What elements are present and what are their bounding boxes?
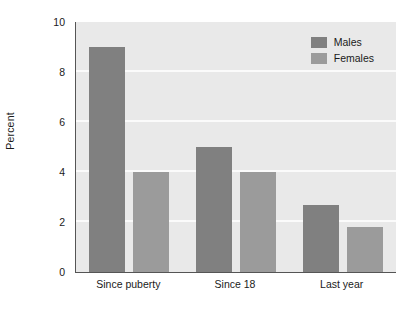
x-axis-tick-labels: Since pubertySince 18Last year: [75, 278, 395, 298]
legend-label-males: Males: [334, 36, 362, 48]
y-tick-label: 8: [59, 66, 65, 78]
y-axis-tick-labels: 0246810: [0, 0, 72, 310]
bar-males-since-puberty: [89, 47, 125, 272]
plot-area: Males Females: [75, 22, 396, 273]
legend-label-females: Females: [334, 52, 374, 64]
legend-item-females: Females: [311, 52, 374, 64]
bar-group: [89, 22, 169, 272]
legend: Males Females: [311, 36, 374, 64]
x-tick-label: Since puberty: [96, 278, 160, 290]
bar-females-since-18: [240, 172, 276, 272]
bar-chart: Percent 0246810 Males Females Since pube…: [0, 0, 408, 310]
y-tick-label: 0: [59, 266, 65, 278]
y-tick-label: 6: [59, 116, 65, 128]
y-tick-label: 2: [59, 216, 65, 228]
males-swatch-icon: [311, 37, 327, 48]
x-tick-label: Since 18: [215, 278, 256, 290]
legend-item-males: Males: [311, 36, 374, 48]
bar-group: [196, 22, 276, 272]
bar-males-last-year: [303, 205, 339, 273]
y-tick-label: 4: [59, 166, 65, 178]
y-tick-label: 10: [53, 16, 65, 28]
females-swatch-icon: [311, 53, 327, 64]
x-tick-label: Last year: [320, 278, 363, 290]
bar-females-last-year: [347, 227, 383, 272]
bar-males-since-18: [196, 147, 232, 272]
bar-females-since-puberty: [133, 172, 169, 272]
